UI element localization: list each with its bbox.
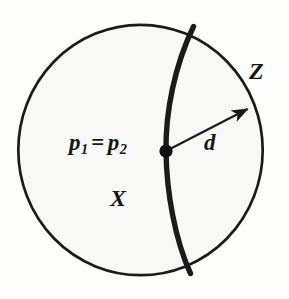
curve-label-z: Z: [249, 59, 264, 83]
point-label-p2-subscript: 2: [120, 141, 127, 157]
distance-label-d: d: [204, 131, 216, 154]
figure-canvas: [0, 0, 289, 299]
point-label-p2-base: p: [108, 130, 120, 155]
point-identity-label: p1=p2: [69, 131, 127, 154]
point-label-p1-base: p: [69, 130, 81, 155]
point-label-p1-subscript: 1: [81, 141, 88, 157]
geometry-figure: p1=p2 d X Z: [0, 0, 289, 299]
region-label-x: X: [110, 186, 126, 210]
equals-sign: =: [88, 130, 108, 155]
center-point-dot: [159, 144, 172, 157]
